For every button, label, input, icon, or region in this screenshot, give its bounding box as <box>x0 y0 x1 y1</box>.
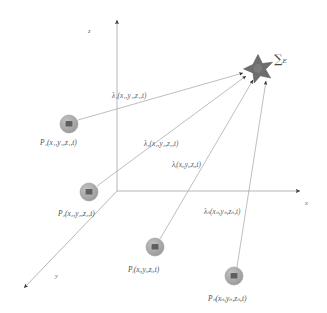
source-node-P2 <box>80 183 98 201</box>
node-label-P2: P₂(x₂,y₂,z₂,t) <box>58 210 95 217</box>
axis-label-z: z <box>88 28 91 35</box>
ray-label-lambdan: λₙ(xₙ,yₙ,zₙ,t) <box>204 209 240 216</box>
source-node-Pn <box>225 267 243 285</box>
energy-sum-receiver-star <box>244 55 273 84</box>
axis-label-y: y <box>55 273 58 280</box>
diagram-canvas: z x y ∑E P₁(x₁,y₁,z₁,t) P₂(x₂,y₂,z₂,t) P… <box>0 0 327 313</box>
source-node-P1 <box>60 115 78 133</box>
ray-label-lambda2: λ₂(x₂,y₂,z₂,t) <box>144 141 178 148</box>
node-label-Pi: Pᵢ(xᵢ,yᵢ,zᵢ,t) <box>128 266 159 273</box>
axis-label-x: x <box>305 200 308 207</box>
ray-lambdan <box>237 81 266 267</box>
diagram-vector-layer <box>0 0 327 313</box>
node-label-Pn: Pₙ(xₙ,yₙ,zₙ,t) <box>208 295 246 302</box>
summation-symbol: ∑ <box>274 52 283 66</box>
ray-label-lambda1: λ₁(x₁,y₁,z₁,t) <box>112 93 146 100</box>
energy-symbol: E <box>283 57 287 65</box>
receiver-label: ∑E <box>274 53 287 65</box>
node-label-P1: P₁(x₁,y₁,z₁,t) <box>40 139 77 146</box>
source-node-Pi <box>146 238 164 256</box>
ray-label-lambda3: λᵢ(xᵢ,yᵢ,zᵢ,t) <box>172 162 201 169</box>
axis-y <box>24 191 117 288</box>
